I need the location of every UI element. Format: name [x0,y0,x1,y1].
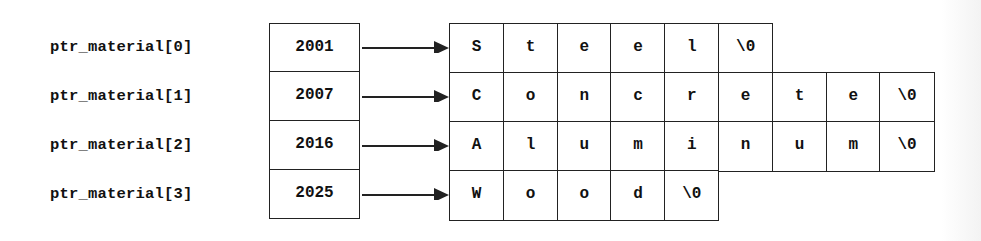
char-cell: u [557,121,612,172]
char-cell: e [610,23,665,74]
pointer-arrow-icon [362,41,450,53]
char-cell: t [772,72,827,123]
char-cell: o [503,72,558,123]
null-terminator-cell: \0 [664,170,719,221]
char-cell: i [664,121,719,172]
address-cell: 2025 [269,169,360,220]
char-cell: u [772,121,827,172]
char-cell: W [449,170,504,221]
char-cell: o [557,170,612,221]
char-cell: S [449,23,504,74]
char-cell: C [449,72,504,123]
char-cell: d [610,170,665,221]
char-cell: r [664,72,719,123]
char-cell: c [610,72,665,123]
address-cell: 2007 [269,71,360,122]
char-cell: o [503,170,558,221]
char-cell: e [557,23,612,74]
char-cell: m [826,121,881,172]
pointer-arrow-icon [362,90,450,102]
null-terminator-cell: \0 [718,23,773,74]
pointer-label: ptr_material[0] [50,23,193,72]
char-cell: t [503,23,558,74]
char-cell: n [557,72,612,123]
pointer-label: ptr_material[3] [50,170,193,219]
pointer-label: ptr_material[2] [50,121,193,170]
char-cell: e [718,72,773,123]
null-terminator-cell: \0 [879,121,934,172]
pointer-label: ptr_material[1] [50,72,193,121]
null-terminator-cell: \0 [879,72,934,123]
char-cell: n [718,121,773,172]
page-edge-shadow [941,0,981,241]
pointer-arrow-icon [362,188,450,200]
char-cell: e [826,72,881,123]
char-cell: l [664,23,719,74]
address-cell: 2001 [269,23,360,72]
char-cell: m [610,121,665,172]
pointer-arrow-icon [362,139,450,151]
address-cell: 2016 [269,120,360,171]
char-cell: l [503,121,558,172]
char-cell: A [449,121,504,172]
